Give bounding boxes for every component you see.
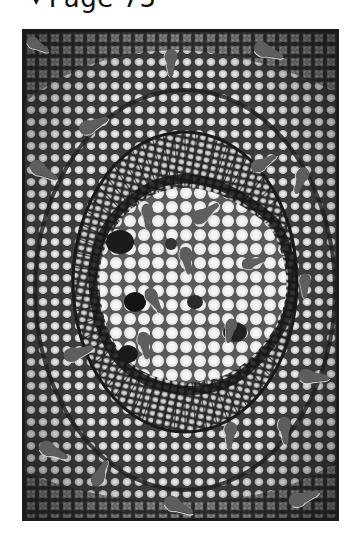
- page-header: ▼Page 75: [30, 0, 157, 13]
- triangle-down-icon[interactable]: ▼: [30, 0, 43, 7]
- page-title: Page 75: [49, 0, 157, 13]
- stem-cross-section-image[interactable]: [22, 29, 339, 521]
- micrograph-canvas: [25, 32, 336, 518]
